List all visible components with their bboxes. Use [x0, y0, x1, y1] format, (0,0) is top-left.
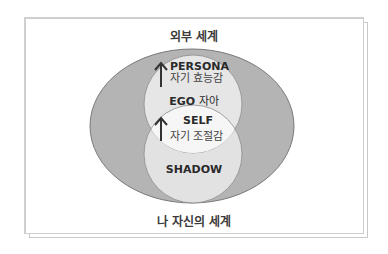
self-subtitle: 자기 조절감 [170, 127, 224, 143]
self-label: SELF [144, 114, 244, 127]
shadow-label: SHADOW [144, 163, 244, 176]
persona-subtitle: 자기 효능감 [170, 73, 224, 85]
ego-subtitle: 자아 [199, 95, 219, 108]
outer-world-label: 외부 세계 [0, 27, 388, 44]
my-world-label: 나 자신의 세계 [0, 212, 388, 229]
ego-title: EGO [169, 95, 195, 108]
ego-label: EGO 자아 [144, 92, 244, 108]
